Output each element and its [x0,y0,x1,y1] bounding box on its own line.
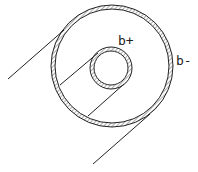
inner-cylinder [90,47,132,89]
outer-tangent-line-lower [93,114,150,164]
coaxial-diagram [0,0,198,172]
label-outer-b-minus: b- [176,54,192,67]
outer-cylinder [51,5,173,127]
label-inner-b-plus: b+ [118,34,134,47]
